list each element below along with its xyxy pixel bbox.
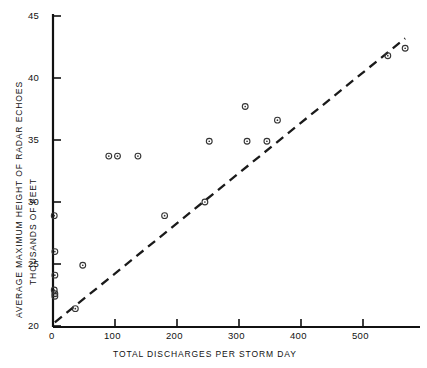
data-point-center (54, 274, 56, 276)
y-tick-label-45: 45 (28, 10, 39, 21)
trend-line (55, 38, 405, 322)
data-point-center (208, 140, 210, 142)
data-point-center (108, 155, 110, 157)
x-tick-label-200: 200 (166, 330, 183, 341)
data-point-center (74, 308, 76, 310)
data-point-center (53, 215, 55, 217)
x-axis-title: TOTAL DISCHARGES PER STORM DAY (113, 349, 297, 359)
x-axis-ticks (53, 319, 363, 327)
x-tick-label-500: 500 (352, 330, 369, 341)
y-tick-label-40: 40 (28, 72, 39, 83)
y-tick-label-20: 20 (28, 320, 39, 331)
data-point-center (164, 215, 166, 217)
data-point-group (51, 45, 408, 311)
data-point-center (244, 106, 246, 108)
data-point-center (246, 140, 248, 142)
data-point-center (54, 251, 56, 253)
y-tick-label-35: 35 (28, 134, 39, 145)
data-point-center (54, 295, 56, 297)
data-point-center (277, 119, 279, 121)
x-tick-label-400: 400 (290, 330, 307, 341)
x-tick-label-0: 0 (49, 330, 55, 341)
data-point-center (117, 155, 119, 157)
y-axis-title-line1: AVERAGE MAXIMUM HEIGHT OF RADAR ECHOES (14, 81, 24, 318)
x-tick-label-300: 300 (228, 330, 245, 341)
x-tick-label-100: 100 (104, 330, 121, 341)
data-point-center (387, 55, 389, 57)
plot-canvas (0, 0, 427, 368)
data-point-center (137, 155, 139, 157)
scatter-plot-figure: 45 40 35 30 25 20 0 100 200 300 400 500 … (0, 0, 427, 368)
data-point-center (266, 140, 268, 142)
data-point-center (204, 201, 206, 203)
data-point-center (404, 47, 406, 49)
data-point-center (82, 264, 84, 266)
y-axis-title-line2: THOUSANDS OF FEET (28, 178, 38, 285)
y-axis-ticks (53, 16, 61, 326)
